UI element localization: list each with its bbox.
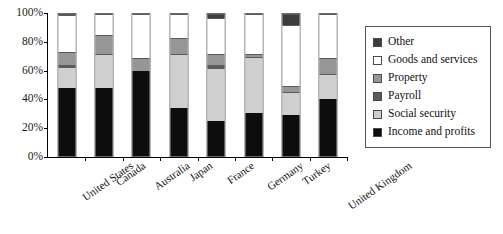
legend-swatch-icon [373, 74, 382, 83]
bar-segment [208, 68, 225, 121]
bar-slot [310, 13, 347, 157]
legend-swatch-icon [373, 110, 382, 119]
legend-item[interactable]: Other [373, 33, 484, 51]
bar-segment [170, 54, 187, 108]
x-axis-label: Australia [153, 160, 192, 192]
bar-segment [282, 25, 299, 86]
stacked-bar[interactable] [281, 13, 300, 157]
bar-slot [123, 13, 160, 157]
bar-slot [235, 13, 272, 157]
bar-segment [96, 54, 113, 88]
bar-segment [170, 38, 187, 54]
bar-slot [160, 13, 197, 157]
bar-segment [320, 99, 337, 156]
x-axis-category-labels: United StatesCanadaAustraliaJapanFranceG… [47, 160, 347, 234]
bar-segment [58, 14, 75, 15]
legend-item[interactable]: Income and profits [373, 123, 484, 141]
bar-slot [85, 13, 122, 157]
legend-item-label: Payroll [388, 90, 421, 102]
bar-segment [245, 57, 262, 114]
x-axis-label: Japan [187, 160, 214, 183]
bar-segment [58, 88, 75, 156]
bar-segment [245, 54, 262, 57]
bar-segment [208, 14, 225, 18]
bar-segment [320, 74, 337, 100]
bar-segment [133, 58, 150, 71]
stacked-bar[interactable] [95, 13, 114, 157]
stacked-bar[interactable] [244, 13, 263, 157]
x-axis-label: France [226, 160, 257, 186]
stacked-bar[interactable] [207, 13, 226, 157]
legend-item[interactable]: Goods and services [373, 51, 484, 69]
bar-segment [282, 86, 299, 92]
bar-segment [282, 14, 299, 25]
legend-swatch-icon [373, 128, 382, 137]
legend-item-label: Property [388, 72, 428, 84]
bar-segment [133, 14, 150, 58]
x-axis-label: Turkey [301, 160, 333, 187]
bar-segment [58, 65, 75, 66]
x-axis-label: Germany [265, 160, 305, 192]
legend-item[interactable]: Social security [373, 105, 484, 123]
bar-segment [58, 15, 75, 52]
bar-segment [58, 52, 75, 65]
bars-area [48, 13, 347, 157]
legend-item-label: Goods and services [388, 54, 477, 66]
bar-segment [320, 14, 337, 58]
bar-segment [245, 14, 262, 54]
stacked-bar-chart: 0%20%40%60%80%100% United StatesCanadaAu… [0, 0, 503, 234]
chart-legend: OtherGoods and servicesPropertyPayrollSo… [365, 26, 491, 148]
bar-segment [282, 115, 299, 156]
bar-segment [96, 88, 113, 156]
bar-slot [48, 13, 85, 157]
bar-slot [272, 13, 309, 157]
legend-item[interactable]: Property [373, 69, 484, 87]
x-axis-label: United Kingdom [346, 160, 413, 212]
bar-segment [282, 92, 299, 115]
bar-segment [320, 58, 337, 74]
bar-segment [170, 14, 187, 38]
stacked-bar[interactable] [319, 13, 338, 157]
bar-segment [133, 71, 150, 156]
legend-item-label: Other [388, 36, 414, 48]
stacked-bar[interactable] [169, 13, 188, 157]
bar-segment [208, 65, 225, 68]
bar-segment [208, 18, 225, 54]
x-axis-tick-mark [347, 157, 348, 161]
legend-swatch-icon [373, 38, 382, 47]
legend-swatch-icon [373, 92, 382, 101]
legend-swatch-icon [373, 56, 382, 65]
bar-segment [96, 35, 113, 53]
plot-area: 0%20%40%60%80%100% [47, 13, 347, 158]
bar-segment [208, 54, 225, 65]
stacked-bar[interactable] [132, 13, 151, 157]
y-axis-tick-mark [44, 157, 48, 158]
legend-item-label: Income and profits [388, 126, 475, 138]
bar-segment [245, 113, 262, 156]
bar-segment [96, 14, 113, 35]
bar-slot [198, 13, 235, 157]
legend-item[interactable]: Payroll [373, 87, 484, 105]
legend-item-label: Social security [388, 108, 456, 120]
bar-segment [58, 67, 75, 88]
stacked-bar[interactable] [57, 13, 76, 157]
bar-segment [208, 121, 225, 157]
bar-segment [170, 108, 187, 156]
